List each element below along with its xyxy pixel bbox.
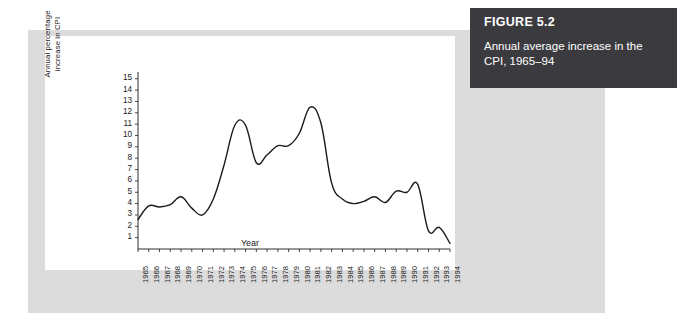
x-tick-label: 1973 bbox=[227, 266, 236, 283]
x-tick-label: 1965 bbox=[141, 266, 150, 283]
x-tick-label: 1992 bbox=[432, 266, 441, 283]
x-tick-label: 1993 bbox=[442, 266, 451, 283]
line-chart: Annual percentage increase in CPI 151413… bbox=[45, 36, 455, 270]
y-tick-label: 11 bbox=[116, 119, 132, 128]
x-tick-label: 1988 bbox=[389, 266, 398, 283]
y-tick-label: 12 bbox=[116, 107, 132, 116]
x-tick-label: 1969 bbox=[184, 266, 193, 283]
y-tick-label: 15 bbox=[116, 73, 132, 82]
y-tick-label: 6 bbox=[116, 175, 132, 184]
x-tick-label: 1974 bbox=[238, 266, 247, 283]
x-tick-label: 1987 bbox=[378, 266, 387, 283]
y-tick-label: 7 bbox=[116, 164, 132, 173]
x-tick-label: 1972 bbox=[217, 266, 226, 283]
x-tick-label: 1978 bbox=[281, 266, 290, 283]
x-tick-label: 1989 bbox=[399, 266, 408, 283]
chart-card: Annual percentage increase in CPI 151413… bbox=[45, 36, 455, 270]
x-tick-label: 1977 bbox=[270, 266, 279, 283]
y-tick-label: 4 bbox=[116, 198, 132, 207]
x-tick-label: 1981 bbox=[313, 266, 322, 283]
y-tick-label: 13 bbox=[116, 96, 132, 105]
x-tick-label: 1967 bbox=[163, 266, 172, 283]
x-tick-label: 1982 bbox=[324, 266, 333, 283]
x-tick-label: 1968 bbox=[173, 266, 182, 283]
y-tick-label: 10 bbox=[116, 130, 132, 139]
x-tick-label: 1986 bbox=[367, 266, 376, 283]
figure-caption: Annual average increase in the CPI, 1965… bbox=[484, 39, 663, 70]
y-tick-label: 9 bbox=[116, 141, 132, 150]
chart-plot-area bbox=[45, 36, 455, 270]
figure-page: Annual percentage increase in CPI 151413… bbox=[0, 0, 677, 334]
y-tick-label: 5 bbox=[116, 187, 132, 196]
x-axis-title: Year bbox=[45, 238, 455, 248]
y-axis-title: Annual percentage increase in CPI bbox=[43, 0, 62, 104]
x-tick-label: 1984 bbox=[346, 266, 355, 283]
x-tick-label: 1979 bbox=[292, 266, 301, 283]
y-tick-label: 8 bbox=[116, 153, 132, 162]
x-tick-label: 1966 bbox=[152, 266, 161, 283]
y-tick-label: 14 bbox=[116, 85, 132, 94]
y-tick-label: 3 bbox=[116, 209, 132, 218]
x-tick-label: 1970 bbox=[195, 266, 204, 283]
x-tick-label: 1991 bbox=[421, 266, 430, 283]
x-tick-label: 1976 bbox=[260, 266, 269, 283]
x-tick-label: 1983 bbox=[335, 266, 344, 283]
figure-caption-box: FIGURE 5.2 Annual average increase in th… bbox=[470, 8, 677, 88]
y-axis-title-text: Annual percentage increase in CPI bbox=[43, 10, 62, 77]
x-tick-label: 1971 bbox=[206, 266, 215, 283]
x-tick-label: 1994 bbox=[453, 266, 462, 283]
x-tick-label: 1980 bbox=[303, 266, 312, 283]
figure-number: FIGURE 5.2 bbox=[484, 16, 663, 30]
y-tick-label: 2 bbox=[116, 221, 132, 230]
x-tick-label: 1985 bbox=[356, 266, 365, 283]
x-tick-label: 1975 bbox=[249, 266, 258, 283]
x-tick-label: 1990 bbox=[410, 266, 419, 283]
